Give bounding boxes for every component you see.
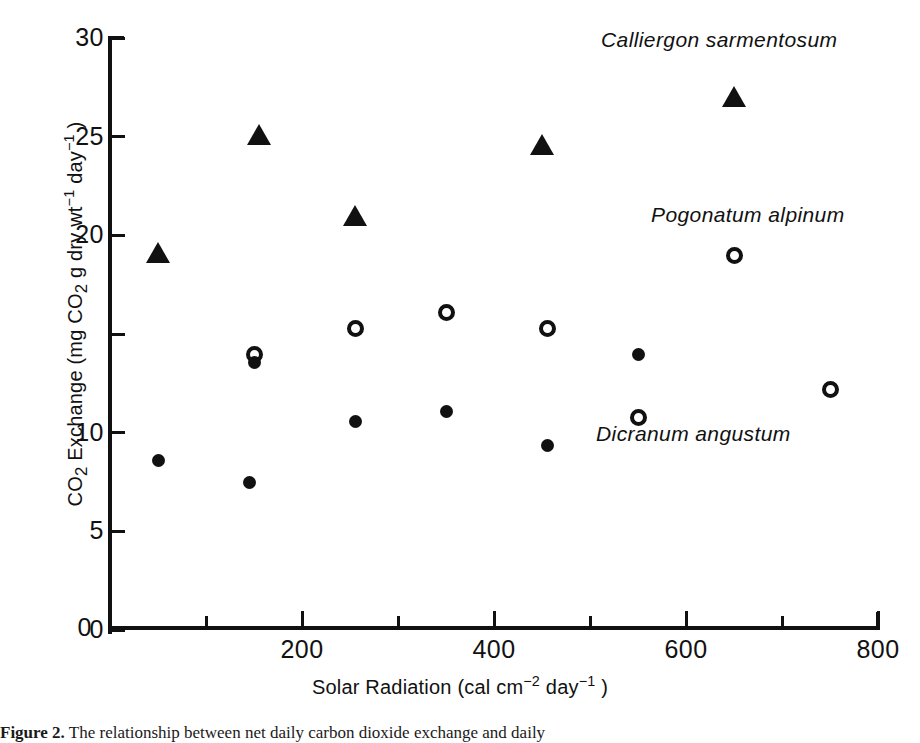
figure-scatter-plot: 051015202530 0200400600800 CO2 Exchange … xyxy=(0,0,920,743)
y-axis-title: CO2 Exchange (mg CO2 g dry wt−1 day−1 ) xyxy=(64,14,92,614)
x-tick-label-400: 400 xyxy=(449,636,539,663)
x-axis-title: Solar Radiation (cal cm−2 day−1 ) xyxy=(0,676,920,699)
data-point-open-circle xyxy=(438,304,455,321)
data-point-filled-triangle xyxy=(146,242,170,263)
caption-text: The relationship between net daily carbo… xyxy=(69,723,545,742)
x-tick-label-0: 0 xyxy=(52,614,92,641)
data-point-open-circle xyxy=(822,381,839,398)
data-point-open-circle xyxy=(726,247,743,264)
data-point-filled-triangle xyxy=(530,134,554,155)
data-point-filled-circle xyxy=(632,348,645,361)
data-point-filled-circle xyxy=(152,454,165,467)
data-point-filled-circle xyxy=(541,439,554,452)
series-label-pogonatum: Pogonatum alpinum xyxy=(651,203,845,227)
data-point-filled-triangle xyxy=(343,205,367,226)
data-point-filled-triangle xyxy=(247,124,271,145)
data-point-filled-circle xyxy=(248,356,261,369)
x-tick-label-600: 600 xyxy=(641,636,731,663)
data-point-filled-triangle xyxy=(722,86,746,107)
data-point-filled-circle xyxy=(243,476,256,489)
data-point-open-circle xyxy=(539,320,556,337)
x-tick-label-200: 200 xyxy=(257,636,347,663)
series-label-calliergon: Calliergon sarmentosum xyxy=(601,28,837,52)
data-point-open-circle xyxy=(347,320,364,337)
data-point-filled-circle xyxy=(349,415,362,428)
figure-caption: Figure 2. The relationship between net d… xyxy=(0,722,920,743)
plot-area xyxy=(110,38,878,630)
figure-number: Figure 2. xyxy=(0,723,65,742)
x-tick-label-800: 800 xyxy=(833,636,920,663)
data-point-filled-circle xyxy=(440,405,453,418)
series-label-dicranum: Dicranum angustum xyxy=(596,422,791,446)
